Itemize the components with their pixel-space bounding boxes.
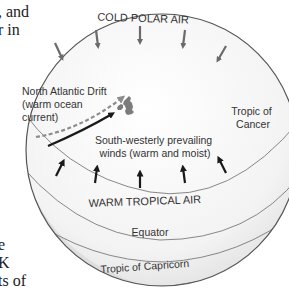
- globe-diagram: COLD POLAR AIR North Atlantic Drift (war…: [0, 0, 289, 298]
- side-text-bottom-1: e: [0, 236, 5, 254]
- side-text-top-2: r in: [0, 21, 20, 39]
- tropic-of-cancer-label: Tropic of Cancer: [231, 105, 274, 130]
- prevailing-winds-label: South-westerly prevailing winds (warm an…: [95, 134, 215, 159]
- cold-arrow-icon: [55, 43, 62, 58]
- side-text-bottom-2: K: [0, 254, 10, 272]
- diagram-stage: COLD POLAR AIR North Atlantic Drift (war…: [0, 0, 289, 298]
- equator-label: Equator: [132, 226, 169, 238]
- side-text-bottom-3: ts of: [0, 272, 26, 290]
- side-text-top-1: , and: [0, 3, 29, 21]
